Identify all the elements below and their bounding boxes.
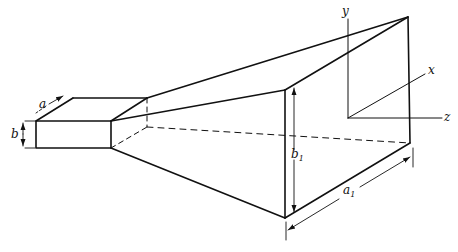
label-b1-text: b: [291, 147, 299, 161]
label-a1-sub: 1: [350, 190, 355, 199]
label-b: b: [11, 128, 19, 140]
axis-label-z: z: [444, 111, 450, 123]
horn-hidden-edge: [147, 127, 410, 143]
waveguide-hidden-edges: [111, 98, 147, 148]
diagram-drawing: [0, 0, 458, 252]
axis-label-y: y: [342, 5, 349, 17]
waveguide: [36, 98, 147, 148]
horn-antenna-diagram: a b b1 a1 y x z: [0, 0, 458, 252]
label-b1: b1: [291, 148, 304, 163]
axis-label-x: x: [428, 64, 435, 76]
label-b1-sub: 1: [299, 154, 304, 163]
label-a: a: [39, 98, 46, 110]
label-a1: a1: [343, 184, 355, 199]
